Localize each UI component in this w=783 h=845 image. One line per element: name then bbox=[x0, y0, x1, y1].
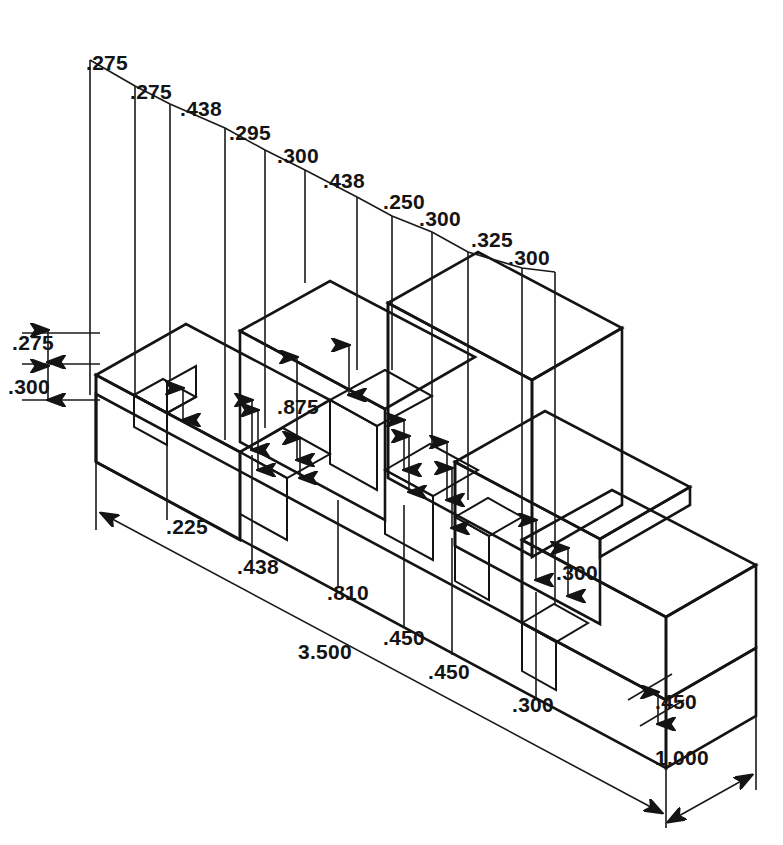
slot-3-inner-bottom bbox=[330, 370, 432, 426]
dim-top-8: .300 bbox=[419, 207, 461, 230]
dim-bottom-225: .225 bbox=[166, 515, 208, 538]
overall-350-line bbox=[101, 513, 662, 813]
tall-right-top-face bbox=[388, 252, 622, 380]
isometric-part-svg: .275 .275 .438 .295 .300 .438 .250 .300 … bbox=[0, 0, 783, 845]
dim-center-875: .875 bbox=[277, 395, 319, 418]
dim-bottom-810: .810 bbox=[327, 581, 369, 604]
dim-top-10: .300 bbox=[508, 246, 550, 269]
dim-depth-1000: 1.000 bbox=[655, 746, 709, 769]
slot-2-inner-bottom bbox=[240, 428, 330, 478]
dim-top-2: .275 bbox=[130, 80, 172, 103]
bottom-dimension-chain: .225 .438 .810 3.500 .450 .450 .300 bbox=[96, 430, 662, 813]
dim-left-275: .275 bbox=[12, 331, 54, 354]
tall-left-top-face bbox=[96, 324, 330, 452]
left-height-dimensions: .275 .300 bbox=[8, 330, 100, 400]
slot-3-inner-wall bbox=[330, 400, 377, 490]
slot-1-inner-wall bbox=[134, 395, 167, 445]
slot-6-inner-bottom bbox=[522, 604, 588, 642]
dim-top-4: .295 bbox=[229, 121, 271, 144]
slot-depth-arrows bbox=[183, 345, 536, 580]
step-mid-right-face bbox=[600, 487, 690, 557]
dim-overall-3500: 3.500 bbox=[298, 640, 352, 663]
right-step-dimension: .300 bbox=[556, 548, 598, 596]
technical-drawing-canvas: .275 .275 .438 .295 .300 .438 .250 .300 … bbox=[0, 0, 783, 845]
slot-4-inner-bottom bbox=[385, 444, 478, 496]
step-low-right-face bbox=[666, 565, 756, 700]
slot-2-inner-wall bbox=[240, 452, 287, 540]
dim-left-300: .300 bbox=[8, 375, 50, 398]
tall-right-side-face bbox=[532, 328, 622, 557]
center-block-front-face bbox=[240, 331, 385, 520]
dim-bottom-450b: .450 bbox=[428, 660, 470, 683]
dim-bottom-438: .438 bbox=[237, 555, 279, 578]
dim-top-3: .438 bbox=[180, 97, 222, 120]
slot-1-inner-bottom bbox=[134, 379, 196, 413]
dim-bottom-300: .300 bbox=[512, 693, 554, 716]
dim-top-5: .300 bbox=[277, 144, 319, 167]
dim-1000-line bbox=[668, 775, 752, 822]
dim-top-1: .275 bbox=[86, 51, 128, 74]
dim-right-450: .450 bbox=[655, 690, 697, 713]
step-low-top-face bbox=[522, 490, 756, 617]
dim-top-9: .325 bbox=[471, 228, 513, 251]
dim-top-6: .438 bbox=[323, 169, 365, 192]
top-dimension-chain: .275 .275 .438 .295 .300 .438 .250 .300 … bbox=[86, 51, 555, 604]
step-mid-top-face bbox=[455, 411, 690, 539]
dim-bottom-450a: .450 bbox=[383, 626, 425, 649]
slot-5-inner-bottom bbox=[455, 498, 522, 536]
slot-6-inner-wall bbox=[522, 623, 556, 690]
dim-right-300: .300 bbox=[556, 561, 598, 584]
